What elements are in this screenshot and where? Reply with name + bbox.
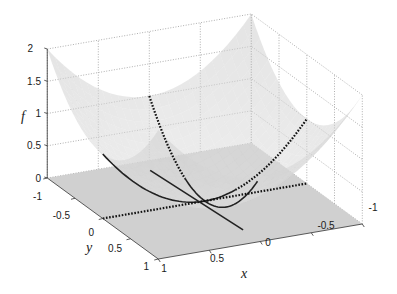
y-axis-label: y	[84, 240, 93, 255]
y-tick-label: 1	[143, 261, 149, 272]
z-tick	[44, 48, 47, 49]
y-tick	[43, 178, 47, 179]
x-tick	[362, 224, 364, 227]
y-tick-label: 0.5	[108, 243, 122, 254]
x-tick-label: 0.5	[210, 253, 224, 264]
z-tick-label: 0.5	[27, 140, 41, 151]
z-tick	[44, 145, 47, 146]
x-tick-label: 1	[161, 263, 167, 274]
y-tick	[99, 219, 103, 220]
z-tick-label: 1.5	[27, 76, 41, 87]
x-tick-label: 0	[265, 237, 271, 248]
y-tick-label: -0.5	[53, 210, 71, 221]
z-tick-label: 1	[35, 108, 41, 119]
x-tick	[260, 242, 262, 245]
z-tick	[44, 80, 47, 81]
y-tick	[71, 198, 75, 199]
z-axis-label: f	[21, 109, 27, 124]
x-tick-label: -0.5	[317, 220, 335, 231]
y-tick-label: -1	[33, 191, 42, 202]
y-tick	[127, 239, 131, 240]
y-tick	[154, 259, 158, 260]
z-tick-label: 0	[35, 173, 41, 184]
surface-patch	[337, 112, 349, 127]
surface-plot: 2 1.5 1 0.5 0 -1 -0.5 0 0.5 1 1 0.5 0 -0…	[0, 0, 397, 294]
surface-patch	[342, 106, 354, 123]
z-tick-label: 2	[27, 43, 33, 54]
x-tick	[158, 259, 160, 262]
surface-patch	[350, 95, 362, 112]
paraboloid-surface	[47, 14, 362, 259]
x-tick-label: -1	[369, 202, 378, 213]
x-tick	[311, 233, 313, 236]
x-axis-label: x	[240, 266, 248, 281]
y-tick-label: 0	[88, 227, 94, 238]
z-tick	[44, 113, 47, 114]
